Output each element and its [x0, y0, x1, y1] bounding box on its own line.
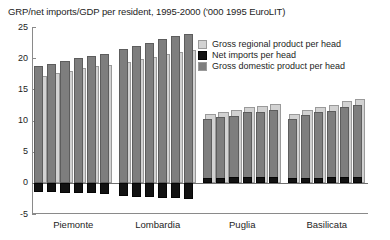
bar-net-imports [327, 177, 336, 183]
bar-slot[interactable] [145, 27, 158, 214]
bar-slot[interactable] [132, 27, 145, 214]
bar-gross-domestic-product [243, 112, 252, 182]
x-axis-label-piemonte: Piemonte [34, 219, 113, 230]
bar-net-imports [216, 178, 225, 183]
bar-net-imports [171, 183, 180, 199]
bar-gross-domestic-product [119, 49, 128, 183]
y-tick-label: 10 [18, 116, 32, 125]
legend-label: Net imports per head [212, 51, 296, 60]
bar-net-imports [158, 183, 167, 198]
bar-net-imports [184, 183, 193, 199]
bar-net-imports [74, 183, 83, 193]
legend-swatch-net-imports [198, 51, 207, 60]
y-tick-label: 5 [23, 147, 32, 156]
y-tick-label: 25 [18, 22, 32, 31]
bar-slot[interactable] [99, 27, 112, 214]
bar-net-imports [119, 183, 128, 196]
bar-net-imports [269, 177, 278, 183]
bar-gross-domestic-product [100, 54, 109, 183]
bar-net-imports [288, 178, 297, 182]
legend-label: Gross domestic product per head [212, 62, 345, 71]
bar-slot[interactable] [353, 27, 366, 214]
bar-slot[interactable] [47, 27, 60, 214]
bar-net-imports [203, 178, 212, 183]
bar-net-imports [34, 183, 43, 192]
bar-gross-domestic-product [327, 111, 336, 183]
legend-swatch-gross-domestic-product [198, 62, 207, 71]
bar-gross-domestic-product [314, 112, 323, 183]
bar-gross-domestic-product [132, 46, 141, 183]
legend-item-1[interactable]: Net imports per head [198, 51, 345, 60]
bar-net-imports [47, 183, 56, 192]
bar-gross-domestic-product [47, 64, 56, 183]
bar-gross-domestic-product [340, 107, 349, 183]
bar-slot[interactable] [184, 27, 197, 214]
bar-slot[interactable] [34, 27, 47, 214]
bar-gross-domestic-product [353, 105, 362, 183]
bar-slot[interactable] [119, 27, 132, 214]
bar-net-imports [353, 177, 362, 183]
bar-gross-domestic-product [256, 112, 265, 183]
bar-net-imports [314, 178, 323, 183]
y-tick-label: 20 [18, 53, 32, 62]
chart-legend: Gross regional product per headNet impor… [198, 40, 345, 71]
bar-net-imports [256, 177, 265, 183]
bar-slot[interactable] [60, 27, 73, 214]
bar-gross-domestic-product [229, 116, 238, 183]
bar-gross-domestic-product [216, 117, 225, 183]
bar-net-imports [87, 183, 96, 194]
bar-slot[interactable] [158, 27, 171, 214]
y-tick-label: -5 [20, 209, 32, 218]
x-axis-label-basilicata: Basilicata [288, 219, 367, 230]
bar-slot[interactable] [86, 27, 99, 214]
bar-gross-domestic-product [184, 34, 193, 183]
bar-gross-domestic-product [269, 110, 278, 183]
bar-gross-domestic-product [60, 61, 69, 183]
y-tick-label: 15 [18, 84, 32, 93]
bar-gross-domestic-product [87, 56, 96, 183]
bar-net-imports [340, 177, 349, 183]
bar-gross-domestic-product [34, 66, 43, 183]
bar-net-imports [301, 178, 310, 183]
chart-title: GRP/net imports/GDP per resident, 1995-2… [8, 6, 285, 17]
x-axis-label-puglia: Puglia [203, 219, 282, 230]
bar-net-imports [132, 183, 141, 197]
bar-group-piemonte [34, 27, 113, 214]
bar-gross-domestic-product [74, 58, 83, 183]
bar-slot[interactable] [171, 27, 184, 214]
bar-group-lombardia [119, 27, 198, 214]
bar-net-imports [100, 183, 109, 194]
legend-item-2[interactable]: Gross domestic product per head [198, 62, 345, 71]
bar-slot[interactable] [73, 27, 86, 214]
x-axis-label-lombardia: Lombardia [119, 219, 198, 230]
y-tick-mark [32, 214, 36, 215]
bar-net-imports [145, 183, 154, 197]
bar-net-imports [243, 177, 252, 183]
bar-net-imports [229, 177, 238, 183]
bar-gross-domestic-product [301, 115, 310, 183]
bar-gross-domestic-product [145, 43, 154, 183]
bar-gross-domestic-product [171, 36, 180, 182]
bar-gross-domestic-product [203, 119, 212, 183]
bar-net-imports [60, 183, 69, 193]
bar-gross-domestic-product [288, 119, 297, 183]
bar-gross-domestic-product [158, 39, 167, 182]
chart-container: GRP/net imports/GDP per resident, 1995-2… [0, 0, 390, 240]
y-tick-label: 0 [23, 178, 32, 187]
legend-swatch-gross-regional-product [198, 40, 207, 49]
legend-item-0[interactable]: Gross regional product per head [198, 40, 345, 49]
legend-label: Gross regional product per head [212, 40, 341, 49]
